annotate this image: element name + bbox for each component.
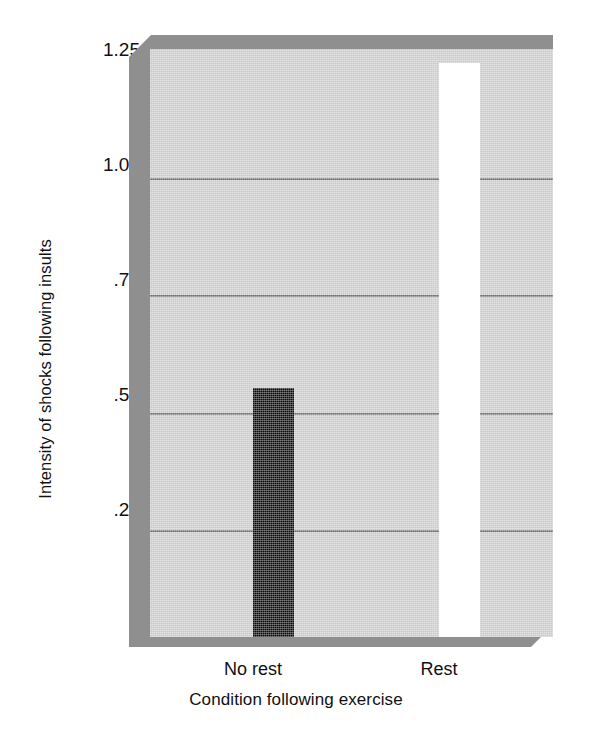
y-tick-label-0-25: .25 — [58, 500, 140, 519]
gridline-0-50 — [150, 413, 553, 415]
bar-rest[interactable] — [439, 63, 480, 637]
bar-no-rest[interactable] — [253, 388, 294, 637]
gridline-0-75 — [150, 295, 553, 297]
y-tick-label-1-25: 1.25 — [58, 40, 140, 59]
y-tick-label-1-00: 1.00 — [58, 155, 140, 174]
gridline-1-00 — [150, 178, 553, 180]
y-tick-label-0-75: .75 — [58, 270, 140, 289]
x-tick-label-no-rest: No rest — [224, 655, 282, 683]
x-axis-title: Condition following exercise — [0, 690, 592, 710]
plot-background — [150, 49, 553, 637]
x-axis-tick-labels: No rest Rest — [129, 655, 553, 683]
plot-area — [129, 35, 553, 647]
y-tick-label-0: 0 — [58, 614, 140, 633]
y-tick-label-0-50: .50 — [58, 385, 140, 404]
bar-chart-figure: Intensity of shocks following insults 1.… — [0, 0, 592, 738]
gridline-0-25 — [150, 530, 553, 532]
y-axis-tick-labels: 1.25 1.00 .75 .50 .25 0 — [58, 0, 140, 738]
x-tick-label-rest: Rest — [420, 655, 457, 683]
